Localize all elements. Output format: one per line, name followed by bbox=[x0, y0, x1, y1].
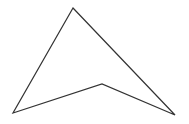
arrowhead-polygon bbox=[13, 8, 175, 115]
diagram-canvas bbox=[0, 0, 189, 124]
